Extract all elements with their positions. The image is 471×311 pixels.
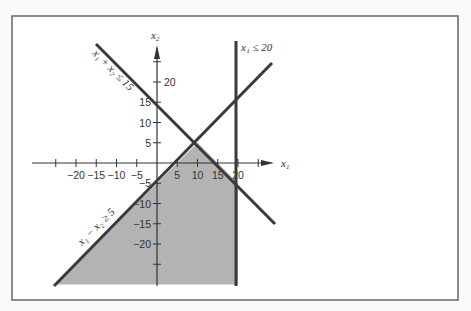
x-tick-label: −10: [108, 169, 126, 181]
lp-diagram: x1x2−20−15−10−551015202015105−5−10−15−20…: [0, 0, 471, 311]
y-tick-label: 10: [139, 117, 151, 129]
y-tick-label: −15: [133, 218, 151, 230]
constraint-label-x1-max: x₁ ≤ 20: [240, 41, 273, 53]
x-tick-label: 10: [192, 169, 204, 181]
y-tick-label: −20: [133, 238, 151, 250]
x-tick-label: 5: [174, 169, 180, 181]
y-tick-label: 5: [145, 137, 151, 149]
x-tick-label: 20: [232, 169, 244, 181]
y-tick-label: 20: [164, 76, 176, 88]
x-tick-label: −20: [67, 169, 85, 181]
x-tick-label: −15: [87, 169, 105, 181]
figure: x1x2−20−15−10−551015202015105−5−10−15−20…: [0, 0, 471, 311]
